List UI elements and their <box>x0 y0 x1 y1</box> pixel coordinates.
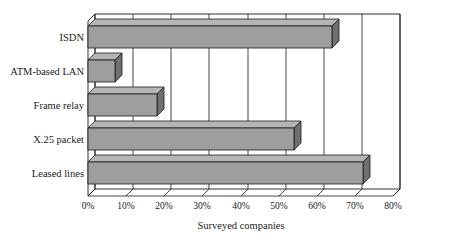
x-axis-title: Surveyed companies <box>197 220 284 231</box>
bar-chart-figure: ISDN ATM-based LAN Frame relay X.25 pack… <box>0 0 452 240</box>
category-label-atm-based-lan: ATM-based LAN <box>10 66 84 77</box>
bar-leased-lines <box>88 155 370 184</box>
x-tick-50: 50% <box>270 201 288 211</box>
category-label-x25-packet: X.25 packet <box>33 134 84 145</box>
x-tick-60: 60% <box>308 201 326 211</box>
bar-isdn <box>88 19 339 48</box>
x-tick-30: 30% <box>193 201 211 211</box>
x-tick-40: 40% <box>232 201 250 211</box>
category-label-leased-lines: Leased lines <box>32 168 84 179</box>
category-label-isdn: ISDN <box>59 32 84 43</box>
bar-x25-packet <box>88 121 301 150</box>
bar-frame-relay <box>88 87 164 116</box>
y-axis-labels: ISDN ATM-based LAN Frame relay X.25 pack… <box>10 32 85 179</box>
x-tick-80: 80% <box>384 201 402 211</box>
gridline-80 <box>393 14 400 196</box>
category-label-frame-relay: Frame relay <box>34 100 85 111</box>
x-axis-tick-labels: 0% 10% 20% 30% 40% 50% 60% 70% 80% <box>82 201 402 211</box>
x-tick-10: 10% <box>117 201 135 211</box>
chart-canvas: ISDN ATM-based LAN Frame relay X.25 pack… <box>0 0 452 240</box>
bar-atm-based-lan <box>88 53 122 82</box>
x-tick-0: 0% <box>82 201 95 211</box>
x-tick-20: 20% <box>155 201 173 211</box>
x-tick-70: 70% <box>346 201 364 211</box>
